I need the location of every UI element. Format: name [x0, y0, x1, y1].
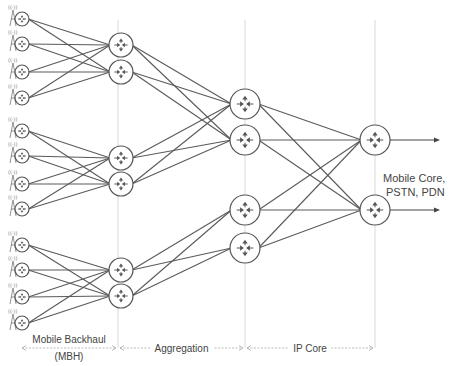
core-label-line1: Mobile Core, — [383, 172, 445, 184]
link-S8-A4 — [28, 184, 110, 209]
link-S2-A1 — [28, 44, 110, 45]
router-icon — [230, 195, 260, 225]
cell-router-S5 — [15, 124, 29, 138]
core-label-line2: PSTN, PDN — [386, 186, 445, 198]
router-icon — [15, 202, 29, 216]
radio-waves-icon: ((·)) — [8, 4, 17, 10]
router-icon — [15, 12, 29, 26]
router-icon — [109, 258, 133, 282]
cell-router-S9 — [15, 238, 29, 252]
radio-waves-icon: ((·)) — [8, 194, 17, 200]
core-router-C1 — [230, 89, 260, 119]
cell-site-S6: ((·)) — [8, 141, 29, 163]
cell-router-S11 — [15, 290, 29, 304]
segment-label: IP Core — [293, 343, 327, 354]
aggregation-router-A6 — [109, 284, 133, 308]
link-A5-C3 — [132, 210, 232, 270]
cell-site-S8: ((·)) — [8, 194, 29, 216]
router-icon — [360, 125, 390, 155]
router-icon — [15, 37, 29, 51]
cell-router-S10 — [15, 263, 29, 277]
link-S1-A1 — [28, 19, 110, 45]
radio-waves-icon: ((·)) — [8, 308, 17, 314]
router-icon — [15, 316, 29, 330]
core-router-C4 — [230, 233, 260, 263]
radio-waves-icon: ((·)) — [8, 282, 17, 288]
segment-aggregation: Aggregation — [120, 341, 243, 354]
edge-router-E1 — [360, 125, 390, 155]
link-A1-C2 — [132, 45, 232, 140]
cell-site-S9: ((·)) — [8, 230, 29, 252]
radio-waves-icon: ((·)) — [8, 29, 17, 35]
router-icon — [15, 177, 29, 191]
core-router-C3 — [230, 195, 260, 225]
link-A3-C1 — [132, 104, 232, 158]
cell-router-S6 — [15, 149, 29, 163]
arrow-right-icon — [434, 208, 440, 213]
segment-mbh: Mobile Backhaul(MBH) — [22, 334, 116, 362]
cell-router-S3 — [15, 65, 29, 79]
aggregation-router-A2 — [109, 60, 133, 84]
cell-router-S7 — [15, 177, 29, 191]
router-icon — [15, 124, 29, 138]
cell-site-S12: ((·)) — [8, 308, 29, 330]
router-icon — [15, 263, 29, 277]
radio-waves-icon: ((·)) — [8, 116, 17, 122]
cell-router-S2 — [15, 37, 29, 51]
cell-site-S11: ((·)) — [8, 282, 29, 304]
link-C1-E1 — [259, 104, 362, 140]
radio-waves-icon: ((·)) — [8, 141, 17, 147]
link-A5-C4 — [132, 248, 232, 270]
segment-spans: Mobile Backhaul(MBH)AggregationIP Core — [22, 334, 373, 362]
radio-waves-icon: ((·)) — [8, 169, 17, 175]
link-S12-A6 — [28, 296, 110, 323]
link-A6-C4 — [132, 248, 232, 296]
segment-label: Aggregation — [155, 343, 209, 354]
aggregation-router-A4 — [109, 172, 133, 196]
cell-router-S12 — [15, 316, 29, 330]
router-icon — [230, 89, 260, 119]
router-icon — [109, 172, 133, 196]
link-A2-C1 — [132, 72, 232, 104]
edge-router-E2 — [360, 195, 390, 225]
aggregation-router-A1 — [109, 33, 133, 57]
router-icon — [15, 91, 29, 105]
link-A3-C2 — [132, 140, 232, 158]
aggregation-router-A3 — [109, 146, 133, 170]
segment-ip-core: IP Core — [247, 341, 373, 354]
link-S5-A3 — [28, 131, 110, 158]
radio-waves-icon: ((·)) — [8, 57, 17, 63]
cell-site-S2: ((·)) — [8, 29, 29, 51]
router-icon — [230, 233, 260, 263]
network-links — [28, 19, 361, 323]
arrow-right-icon — [434, 138, 440, 143]
router-icon — [109, 284, 133, 308]
cell-site-S5: ((·)) — [8, 116, 29, 138]
router-icon — [109, 60, 133, 84]
radio-waves-icon: ((·)) — [8, 83, 17, 89]
cell-router-S1 — [15, 12, 29, 26]
link-A4-C1 — [132, 104, 232, 184]
link-A6-C3 — [132, 210, 232, 296]
radio-waves-icon: ((·)) — [8, 255, 17, 261]
radio-waves-icon: ((·)) — [8, 230, 17, 236]
link-C4-E2 — [259, 210, 362, 248]
segment-sublabel: (MBH) — [55, 351, 84, 362]
aggregation-router-A5 — [109, 258, 133, 282]
segment-label: Mobile Backhaul — [32, 334, 105, 345]
cell-site-S1: ((·)) — [8, 4, 29, 26]
link-A1-C1 — [132, 45, 232, 104]
router-icon — [109, 146, 133, 170]
cell-site-S3: ((·)) — [8, 57, 29, 79]
router-icon — [15, 65, 29, 79]
router-icon — [230, 125, 260, 155]
network-diagram: ((·))((·))((·))((·))((·))((·))((·))((·))… — [0, 0, 451, 366]
router-icon — [15, 290, 29, 304]
link-S1-A2 — [28, 19, 110, 72]
cell-site-S7: ((·)) — [8, 169, 29, 191]
network-nodes: ((·))((·))((·))((·))((·))((·))((·))((·))… — [8, 4, 390, 330]
cell-site-S4: ((·)) — [8, 83, 29, 105]
core-router-C2 — [230, 125, 260, 155]
cell-router-S8 — [15, 202, 29, 216]
cell-site-S10: ((·)) — [8, 255, 29, 277]
